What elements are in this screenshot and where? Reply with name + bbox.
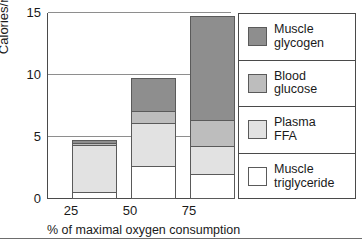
legend-item-muscle-triglyceride[interactable]: Muscle triglyceride (239, 154, 355, 201)
x-tick-label-25: 25 (48, 203, 94, 218)
legend-label-line1: Plasma (274, 115, 316, 129)
bar-segment-muscle-glycogen[interactable] (131, 78, 176, 111)
legend-label-line1: Blood (274, 69, 306, 83)
bar-segment-muscle-triglyceride[interactable] (190, 174, 235, 199)
legend-label-line2: FFA (274, 129, 297, 143)
x-axis-title: % of maximal oxygen consumption (47, 223, 237, 237)
legend-label-muscle-triglyceride: Muscle triglyceride (274, 163, 334, 190)
legend-item-muscle-glycogen[interactable]: Muscle glycogen (239, 14, 355, 61)
plot-area (47, 13, 230, 199)
legend-label-line1: Muscle (274, 162, 314, 176)
bar-50[interactable] (131, 78, 176, 198)
legend-swatch-blood-glucose (248, 74, 267, 93)
legend-swatch-plasma-ffa (248, 120, 267, 139)
legend-label-line2: glucose (274, 82, 317, 96)
bar-25[interactable] (72, 140, 117, 198)
legend-label-line1: Muscle (274, 22, 314, 36)
y-tick-label-0: 0 (15, 191, 41, 206)
page-divider-rule (0, 238, 362, 239)
bar-segment-muscle-glycogen[interactable] (190, 16, 235, 121)
legend-swatch-muscle-triglyceride (248, 167, 267, 186)
gridline-15 (48, 12, 231, 13)
y-tick-label-10: 10 (15, 67, 41, 82)
legend-label-blood-glucose: Blood glucose (274, 70, 317, 97)
y-tick-label-15: 15 (15, 5, 41, 20)
bar-segment-plasma-ffa[interactable] (190, 146, 235, 175)
bar-segment-blood-glucose[interactable] (131, 111, 176, 125)
legend-item-blood-glucose[interactable]: Blood glucose (239, 61, 355, 108)
legend-item-plasma-ffa[interactable]: Plasma FFA (239, 107, 355, 154)
bar-segment-plasma-ffa[interactable] (72, 145, 117, 193)
x-tick-label-75: 75 (166, 203, 212, 218)
bar-75[interactable] (190, 16, 235, 198)
bar-segment-muscle-triglyceride[interactable] (72, 192, 117, 199)
legend-label-line2: triglyceride (274, 176, 334, 190)
bar-segment-muscle-triglyceride[interactable] (131, 166, 176, 199)
legend-label-muscle-glycogen: Muscle glycogen (274, 23, 324, 50)
legend-label-line2: glycogen (274, 36, 324, 50)
legend-swatch-muscle-glycogen (248, 27, 267, 46)
bar-segment-blood-glucose[interactable] (190, 120, 235, 147)
chart-legend: Muscle glycogen Blood glucose Plasma FFA… (238, 13, 356, 199)
y-axis-title: Calories/min (0, 0, 11, 78)
bar-segment-plasma-ffa[interactable] (131, 123, 176, 167)
legend-label-plasma-ffa: Plasma FFA (274, 116, 316, 143)
x-tick-label-50: 50 (107, 203, 153, 218)
y-tick-label-5: 5 (15, 129, 41, 144)
chart-figure: Calories/min 15 10 5 0 25 50 75 % of max… (0, 0, 362, 242)
